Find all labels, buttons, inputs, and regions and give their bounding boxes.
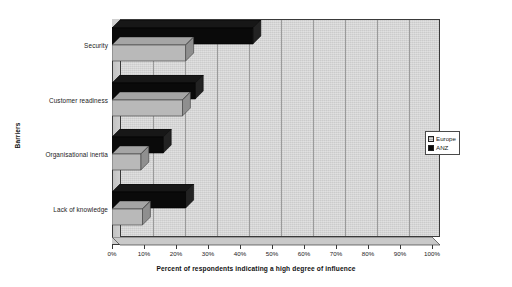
x-axis-tick — [432, 245, 433, 249]
gridline — [217, 20, 218, 236]
legend-item[interactable]: Europe — [428, 134, 456, 143]
bar-3d-shape — [112, 201, 151, 226]
bar-3d-shape — [112, 37, 195, 62]
x-axis-tick — [400, 245, 401, 249]
x-axis-tick — [176, 245, 177, 249]
legend: EuropeANZ — [425, 131, 460, 155]
gridline — [281, 20, 282, 236]
x-axis-tick-label: 50% — [257, 250, 287, 257]
legend-label: ANZ — [436, 143, 448, 152]
bar-europe-lack-of-knowledge — [112, 209, 142, 225]
legend-item[interactable]: ANZ — [428, 143, 456, 152]
x-axis-tick-label: 20% — [161, 250, 191, 257]
x-axis-tick — [208, 245, 209, 249]
x-axis-tick-label: 10% — [129, 250, 159, 257]
x-axis-tick-label: 80% — [353, 250, 383, 257]
x-axis-tick — [368, 245, 369, 249]
gridline — [313, 20, 314, 236]
x-axis-tick-label: 40% — [225, 250, 255, 257]
x-axis-tick — [112, 245, 113, 249]
gridline — [377, 20, 378, 236]
gridline — [409, 20, 410, 236]
x-axis-tick-label: 90% — [385, 250, 415, 257]
y-axis-tick-label: Lack of knowledge — [4, 206, 108, 213]
bar-europe-organisational-inertia — [112, 154, 141, 170]
bar-3d-shape — [112, 92, 191, 117]
bar-europe-customer-readiness — [112, 100, 182, 116]
x-axis-tick — [144, 245, 145, 249]
legend-label: Europe — [436, 134, 456, 143]
plot-floor-edge — [112, 237, 440, 246]
bar-3d-shape — [112, 146, 150, 171]
gridline — [249, 20, 250, 236]
y-axis-category-labels: SecurityCustomer readinessOrganisational… — [0, 0, 108, 287]
bar-chart: Barriers SecurityCustomer readinessOrgan… — [0, 0, 512, 287]
x-axis-tick — [304, 245, 305, 249]
y-axis-tick-label: Customer readiness — [4, 97, 108, 104]
gridline — [345, 20, 346, 236]
x-axis-title: Percent of respondents indicating a high… — [0, 265, 512, 272]
legend-swatch-europe — [428, 136, 434, 142]
x-axis-tick-label: 0% — [97, 250, 127, 257]
y-axis-tick-label: Organisational inertia — [4, 151, 108, 158]
x-axis-tick — [240, 245, 241, 249]
legend-swatch-anz — [428, 145, 434, 151]
x-axis-tick-label: 100% — [417, 250, 447, 257]
x-axis-tick — [336, 245, 337, 249]
bar-europe-security — [112, 45, 186, 61]
x-axis-tick-label: 30% — [193, 250, 223, 257]
y-axis-tick-label: Security — [4, 42, 108, 49]
x-axis-tick — [272, 245, 273, 249]
x-axis-tick-label: 70% — [321, 250, 351, 257]
x-axis-tick-label: 60% — [289, 250, 319, 257]
